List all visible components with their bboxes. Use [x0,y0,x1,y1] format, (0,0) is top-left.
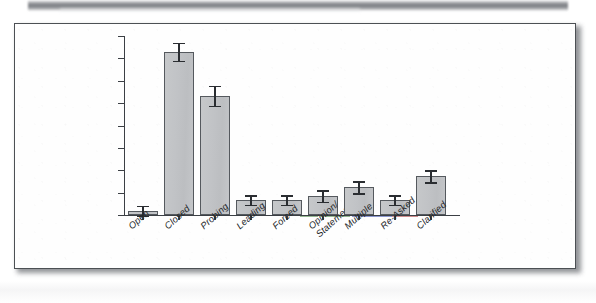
error-bar-whisker [178,43,179,61]
scan-bottom-smudge [0,281,596,303]
error-bar-whisker [322,190,323,202]
bar[interactable] [200,96,230,215]
error-bar-whisker [250,195,251,205]
error-bar-cap-bottom [425,182,437,183]
y-axis-tick [118,36,125,37]
error-bar-cap-top [173,43,185,44]
error-bar-whisker [394,195,395,205]
error-bar-cap-top [389,195,401,196]
y-axis-tick [118,193,125,194]
bar[interactable] [164,52,194,215]
error-bar-cap-bottom [353,193,365,194]
y-axis-tick [118,148,125,149]
error-bar-whisker [358,181,359,193]
bar-chart: OpenClosedProbingLeadingForcedOpinion/St… [0,0,596,303]
error-bar-cap-top [281,195,293,196]
y-axis-tick [118,58,125,59]
error-bar-cap-top [209,86,221,87]
error-bar-whisker [214,86,215,106]
error-bar-cap-top [317,190,329,191]
y-axis-tick [118,170,125,171]
error-bar-cap-bottom [209,106,221,107]
error-bar-whisker [430,170,431,182]
y-axis-tick [118,103,125,104]
y-axis-tick [118,126,125,127]
error-bar-cap-top [425,170,437,171]
error-bar-cap-top [245,195,257,196]
error-bar-cap-bottom [173,61,185,62]
error-bar-whisker [286,195,287,205]
y-axis-tick [118,81,125,82]
error-bar-cap-top [353,181,365,182]
